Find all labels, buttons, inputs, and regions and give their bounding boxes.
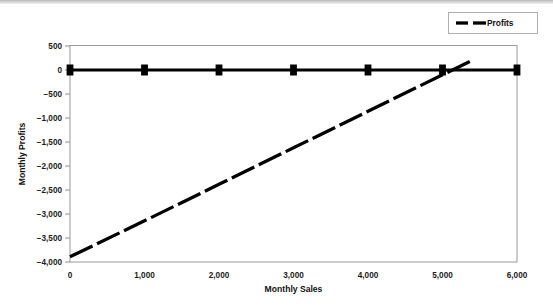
chart-container: 500 0 −500 −1,000 −1,500 −2,000 −2,500 −… (0, 0, 553, 307)
y-tick-label: −2,000 (37, 162, 63, 171)
y-tick-label: −2,500 (37, 186, 63, 195)
y-tick-label: −4,000 (37, 258, 63, 267)
plot-area-border (70, 46, 517, 263)
y-tick-label: 500 (48, 42, 62, 51)
x-tick-label: 6,000 (507, 271, 528, 280)
y-tick-label: −3,000 (37, 210, 63, 219)
x-tick-label: 5,000 (432, 271, 453, 280)
y-axis-title: Monthly Profits (17, 123, 27, 186)
y-axis-tick-labels: 500 0 −500 −1,000 −1,500 −2,000 −2,500 −… (37, 42, 63, 267)
y-tick-label: −1,000 (37, 114, 63, 123)
x-tick-label: 1,000 (134, 271, 155, 280)
break-even-chart: 500 0 −500 −1,000 −1,500 −2,000 −2,500 −… (0, 0, 553, 307)
legend-label-profits: Profits (487, 18, 514, 28)
chart-legend[interactable]: Profits (449, 13, 538, 34)
x-axis-title: Monthly Sales (265, 284, 323, 294)
y-tick-label: 0 (57, 66, 62, 75)
x-tick-label: 0 (68, 271, 73, 280)
y-tick-label: −3,500 (37, 234, 63, 243)
x-axis-tick-labels: 0 1,000 2,000 3,000 4,000 5,000 6,000 (68, 271, 528, 280)
x-tick-label: 3,000 (283, 271, 304, 280)
series-line-profits (70, 60, 472, 257)
y-tick-label: −500 (44, 90, 63, 99)
x-tick-label: 4,000 (358, 271, 379, 280)
y-tick-label: −1,500 (37, 138, 63, 147)
x-tick-label: 2,000 (209, 271, 230, 280)
y-axis-ticks (65, 46, 70, 262)
